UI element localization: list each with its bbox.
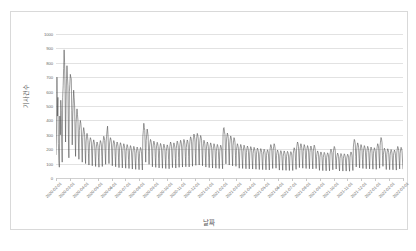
plot-area bbox=[56, 34, 403, 178]
y-tick-label: 400 bbox=[46, 118, 53, 123]
x-tick-mark bbox=[403, 178, 404, 181]
series-line bbox=[56, 34, 403, 178]
y-tick-label: 700 bbox=[46, 75, 53, 80]
y-tick-label: 100 bbox=[46, 161, 53, 166]
y-tick-label: 0 bbox=[51, 176, 53, 181]
y-tick-label: 300 bbox=[46, 132, 53, 137]
y-tick-label: 600 bbox=[46, 89, 53, 94]
x-axis-title: 날짜 bbox=[11, 218, 407, 227]
y-axis-tick-labels: 10009008007006005004003002001000 bbox=[11, 34, 53, 178]
x-axis-tick-labels: 2020-02-012020-03-012020-04-012020-05-01… bbox=[56, 181, 403, 221]
y-tick-label: 200 bbox=[46, 147, 53, 152]
y-tick-label: 800 bbox=[46, 60, 53, 65]
chart-screenshot: 기사건수 10009008007006005004003002001000 20… bbox=[0, 0, 416, 251]
y-tick-label: 1000 bbox=[44, 32, 53, 37]
y-tick-label: 900 bbox=[46, 46, 53, 51]
y-tick-label: 500 bbox=[46, 104, 53, 109]
chart-frame: 기사건수 10009008007006005004003002001000 20… bbox=[10, 11, 408, 230]
